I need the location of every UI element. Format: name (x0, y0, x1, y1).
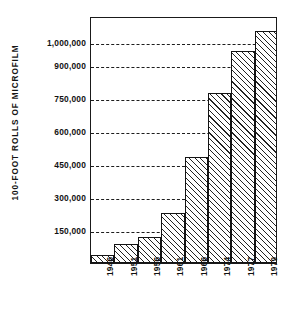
x-axis-tick-label: 1961 (175, 232, 185, 276)
y-axis-tick-labels: 1,000,000900,000750,000600,000450,000300… (26, 0, 86, 270)
bars (91, 18, 276, 263)
x-axis-tick-label: 1951 (129, 232, 139, 276)
plot-area (90, 17, 277, 264)
x-axis-tick-label: 1946 (105, 232, 115, 276)
microfilm-growth-bar-chart: 100-FOOT ROLLS OF MICROFILM 1,000,000900… (0, 0, 294, 328)
y-axis-tick-label: 1,000,000 (28, 38, 86, 48)
y-axis-title: 100-FOOT ROLLS OF MICROFILM (11, 8, 20, 238)
y-axis-tick-label: 750,000 (28, 94, 86, 104)
x-axis-tick-labels: 19461951195619611966197419771979 (90, 264, 277, 328)
y-axis-title-container: 100-FOOT ROLLS OF MICROFILM (0, 0, 26, 270)
bar-1979 (255, 31, 277, 263)
y-axis-tick-label: 450,000 (28, 160, 86, 170)
y-axis-tick-label: 900,000 (28, 61, 86, 71)
x-axis-tick-label: 1977 (246, 232, 256, 276)
x-axis-tick-label: 1956 (152, 232, 162, 276)
x-axis-tick-label: 1974 (222, 232, 232, 276)
y-axis-tick-label: 150,000 (28, 226, 86, 236)
y-axis-tick-label: 300,000 (28, 193, 86, 203)
x-axis-tick-label: 1979 (269, 232, 279, 276)
y-axis-tick-label: 600,000 (28, 127, 86, 137)
x-axis-tick-label: 1966 (199, 232, 209, 276)
